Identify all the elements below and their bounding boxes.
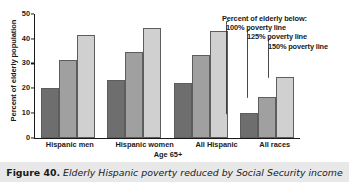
bar[interactable]: [107, 80, 125, 138]
bar[interactable]: [240, 113, 258, 138]
y-tick-mark: [31, 137, 34, 138]
legend-item-150: 150% poverty line: [268, 42, 349, 51]
y-tick-mark: [31, 112, 34, 113]
y-tick-label: 0: [10, 134, 30, 141]
y-tick-label: 40: [10, 35, 30, 42]
y-tick-mark: [31, 63, 34, 64]
figure-number: Figure 40.: [6, 167, 60, 178]
bar[interactable]: [192, 55, 210, 137]
figure-caption: Figure 40. Elderly Hispanic poverty redu…: [0, 162, 349, 182]
x-axis-title: Age 65+: [35, 150, 301, 159]
x-axis-tick-labels: Hispanic menHispanic womenAll HispanicAl…: [35, 140, 301, 149]
figure-container: Percent of elderly population 0102030405…: [0, 0, 349, 182]
x-tick-label: Hispanic women: [115, 140, 173, 149]
bar-group: [174, 14, 228, 138]
legend-item-125: 125% poverty line: [247, 32, 349, 41]
x-tick-label: All races: [259, 140, 290, 149]
bar[interactable]: [276, 77, 294, 138]
x-tick-label: Hispanic men: [46, 140, 94, 149]
x-axis-line: [34, 138, 300, 139]
bar[interactable]: [77, 35, 95, 138]
bar[interactable]: [125, 52, 143, 137]
figure-caption-text: Elderly Hispanic poverty reduced by Soci…: [63, 167, 343, 178]
bar-group: [107, 14, 161, 138]
bar-group: [41, 14, 95, 138]
y-tick-mark: [31, 88, 34, 89]
y-tick-mark: [31, 38, 34, 39]
chart-plot-region: Percent of elderly population 0102030405…: [0, 0, 349, 152]
bar[interactable]: [143, 28, 161, 138]
legend: Percent of elderly below: 100% poverty l…: [222, 14, 349, 51]
bar[interactable]: [41, 88, 59, 137]
x-tick-label: All Hispanic: [195, 140, 237, 149]
y-tick-label: 10: [10, 109, 30, 116]
bar[interactable]: [258, 97, 276, 138]
y-tick-label: 30: [10, 60, 30, 67]
y-tick-label: 50: [10, 10, 30, 17]
bar[interactable]: [174, 83, 192, 137]
bar[interactable]: [59, 60, 77, 138]
y-tick-mark: [31, 13, 34, 14]
legend-item-100: 100% poverty line: [226, 23, 349, 32]
legend-title: Percent of elderly below:: [222, 14, 349, 23]
y-tick-label: 20: [10, 85, 30, 92]
